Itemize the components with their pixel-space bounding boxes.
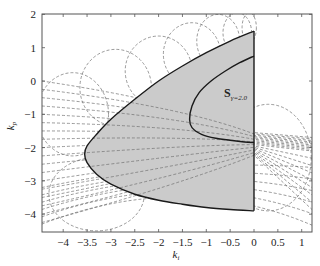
x-tick-label: −2 [153,236,165,248]
x-tick-label: 1 [299,236,305,248]
x-tick-label: −4 [57,236,69,248]
x-tick-label: −0.5 [220,236,240,248]
y-tick-label: −2 [24,142,36,154]
y-tick-label: 2 [31,8,37,20]
stability-region-chart: −4−3.5−3−2.5−2−1.5−1−0.500.51 210−1−2−3−… [0,0,320,266]
y-axis-label: kp [4,121,18,130]
x-tick-label: −3 [105,236,117,248]
y-tick-label: −1 [24,108,36,120]
x-tick-label: −1 [200,236,212,248]
y-tick-label: −3 [24,175,36,187]
x-tick-label: 0 [251,236,257,248]
x-tick-label: −3.5 [77,236,97,248]
x-tick-label: −1.5 [172,236,192,248]
y-tick-label: 1 [31,42,37,54]
x-axis-label: ki [173,248,180,262]
y-tick-label: 0 [31,75,37,87]
y-tick-label: −4 [24,208,36,220]
x-tick-label: −2.5 [125,236,145,248]
x-tick-label: 0.5 [271,236,285,248]
